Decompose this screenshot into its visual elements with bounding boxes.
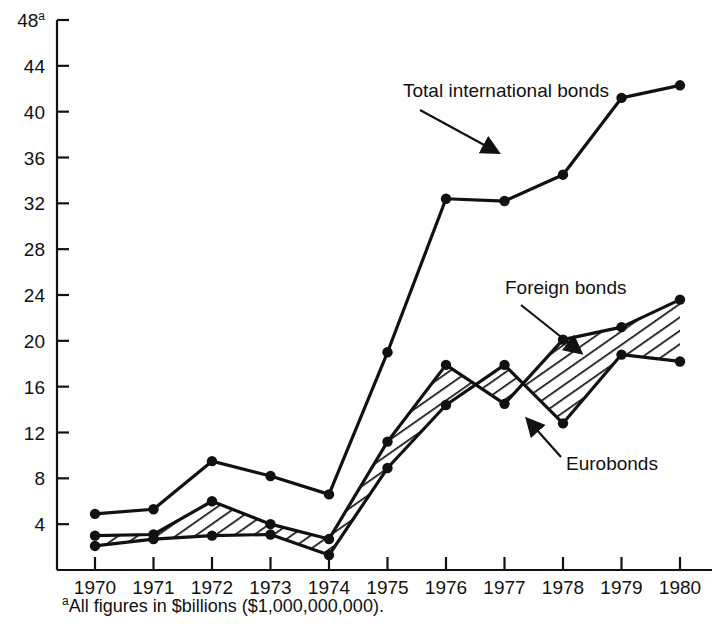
x-tick-label: 1971 (132, 577, 174, 598)
data-point (265, 529, 275, 539)
data-point (616, 93, 626, 103)
y-tick-label: 12 (24, 423, 45, 444)
y-axis-tick-labels: 4812162024283236404448a (17, 9, 45, 535)
chart-container: 4812162024283236404448a 1970197119721973… (0, 0, 716, 637)
footnote: aAll figures in $billions ($1,000,000,00… (62, 594, 384, 616)
y-tick-label: 40 (24, 102, 45, 123)
data-point (324, 489, 334, 499)
data-point (90, 509, 100, 519)
y-tick-label: 32 (24, 193, 45, 214)
data-point (616, 349, 626, 359)
y-tick-label: 44 (24, 56, 46, 77)
data-series-group (90, 80, 685, 560)
x-tick-label: 1980 (659, 577, 701, 598)
x-tick-label: 1979 (600, 577, 642, 598)
data-point (90, 530, 100, 540)
data-point (148, 534, 158, 544)
data-point (324, 550, 334, 560)
line-chart: 4812162024283236404448a 1970197119721973… (0, 0, 716, 637)
data-point (558, 169, 568, 179)
data-point (207, 456, 217, 466)
y-tick-label: 8 (34, 468, 45, 489)
chart-annotations: Total international bondsForeign bondsEu… (403, 80, 658, 474)
data-point (558, 418, 568, 428)
x-tick-label: 1973 (249, 577, 291, 598)
data-point (148, 504, 158, 514)
data-point (382, 436, 392, 446)
annotation-arrow (420, 110, 497, 152)
annotation-label: Foreign bonds (505, 277, 626, 298)
y-tick-label: 20 (24, 331, 45, 352)
x-tick-label: 1974 (308, 577, 351, 598)
data-point (441, 194, 451, 204)
data-point (324, 534, 334, 544)
data-point (499, 360, 509, 370)
data-point (675, 80, 685, 90)
data-point (675, 356, 685, 366)
x-tick-label: 1975 (366, 577, 408, 598)
data-point (499, 399, 509, 409)
x-tick-label: 1976 (425, 577, 467, 598)
data-point (207, 530, 217, 540)
y-tick-label: 28 (24, 239, 45, 260)
data-point (441, 360, 451, 370)
x-axis-ticks (95, 557, 680, 570)
annotation-arrow (521, 305, 580, 352)
data-point (90, 541, 100, 551)
x-tick-label: 1970 (74, 577, 116, 598)
data-point (265, 471, 275, 481)
data-point (499, 196, 509, 206)
x-tick-label: 1977 (483, 577, 525, 598)
data-point (675, 294, 685, 304)
y-tick-label: 16 (24, 377, 45, 398)
y-axis-ticks (57, 20, 69, 524)
data-point (441, 400, 451, 410)
series-foreign-bonds (90, 294, 685, 544)
annotation-label: Total international bonds (403, 80, 609, 101)
y-tick-label: 4 (34, 514, 45, 535)
data-point (265, 519, 275, 529)
y-tick-label: 36 (24, 148, 45, 169)
x-tick-label: 1972 (191, 577, 233, 598)
data-point (382, 347, 392, 357)
y-tick-label: 48a (17, 9, 45, 31)
data-point (616, 322, 626, 332)
y-tick-label: 24 (24, 285, 46, 306)
annotation-arrow (528, 420, 561, 457)
annotation-label: Eurobonds (566, 453, 658, 474)
annotation: Eurobonds (528, 420, 658, 474)
data-point (207, 496, 217, 506)
data-point (382, 463, 392, 473)
annotation: Total international bonds (403, 80, 609, 152)
x-tick-label: 1978 (542, 577, 584, 598)
x-axis-tick-labels: 1970197119721973197419751976197719781979… (74, 577, 701, 598)
